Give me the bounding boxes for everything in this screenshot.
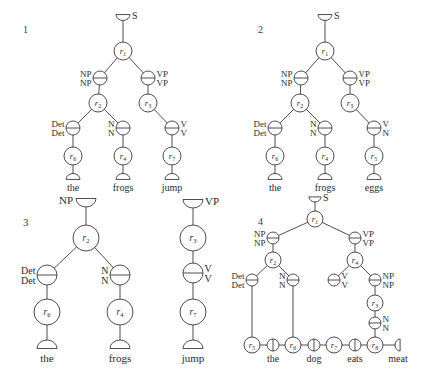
rule-node-r3: r3 (367, 295, 383, 311)
panel-2: 2Sr1NPNPVPVPr2r3DetDetNNVNr6r4r5thefrogs… (254, 10, 390, 194)
leaf-jump: jump (161, 174, 183, 194)
feature-bottom-label: Det (232, 280, 245, 290)
diagram-canvas: 1Sr1NPNPVPVPr2r3DetDetNNVVr6r4r7thefrogs… (0, 0, 425, 381)
root-label: S (323, 192, 329, 203)
leaf-frogs: frogs (113, 174, 134, 194)
feature-node: DetDet (21, 265, 57, 286)
rule-node-r4: r4 (107, 299, 133, 325)
rule-node-r3: r3 (139, 94, 157, 112)
panel-4: 4Sr1NPNPVPVPr2r4DetDetNNVVNPNPr3NNr5ther… (232, 192, 408, 364)
leaf-word: the (40, 352, 54, 364)
rule-node-r5: r5 (365, 147, 383, 165)
feature-node: NPNP (281, 69, 308, 88)
panel-1: 1Sr1NPNPVPVPr2r3DetDetNNVVr6r4r7thefrogs… (23, 10, 188, 194)
leaf-word: frogs (109, 352, 132, 364)
rule-node-r1: r1 (307, 211, 323, 227)
cup-icon (76, 199, 96, 208)
feature-bottom-label: VP (363, 238, 375, 248)
end-cup-icon (395, 339, 400, 351)
feature-bottom-label: N (101, 275, 108, 286)
rule-node-r1: r1 (316, 42, 334, 60)
feature-bottom-label: NP (281, 78, 293, 88)
end-cup-meat: meat (388, 339, 408, 364)
leaf-eggs: eggs (365, 174, 383, 194)
root-cup: S (116, 10, 138, 21)
feature-bottom-label: VP (359, 78, 371, 88)
root-label: NP (59, 194, 73, 206)
feature-bottom-label: NP (80, 78, 92, 88)
cup-icon (116, 15, 130, 21)
feature-node: VPVP (141, 69, 168, 88)
feature-node: NN (310, 119, 332, 138)
rule-node-r7: r7 (326, 337, 342, 353)
rule-node-r3: r3 (341, 94, 359, 112)
leaf-the: the (66, 174, 80, 194)
leaf-word: the (269, 182, 282, 193)
word-label: meat (388, 353, 408, 364)
feature-bottom-label: NP (254, 238, 266, 248)
feature-bottom-label: N (383, 323, 390, 333)
feature-node: DetDet (232, 271, 259, 290)
leaf-jump: jump (181, 340, 205, 364)
rule-node-r6: r6 (64, 147, 82, 165)
rule-node-r4: r4 (347, 252, 363, 268)
feature-node: VN (367, 119, 390, 138)
panel-number: 2 (258, 24, 263, 35)
feature-node: DetDet (52, 119, 81, 138)
leaf-cup-icon (66, 174, 80, 180)
word-node-the: the (267, 339, 280, 364)
leaf-word: jump (181, 352, 205, 364)
rule-node-r2: r2 (291, 94, 309, 112)
rule-node-r2: r2 (265, 252, 281, 268)
rule-node-r8: r8 (367, 337, 383, 353)
leaf-the: the (268, 174, 282, 194)
root-label: VP (205, 195, 219, 207)
leaf-the: the (37, 340, 57, 364)
rule-node-r5: r5 (244, 337, 260, 353)
feature-bottom-label: Det (52, 128, 65, 138)
feature-bottom-label: N (383, 128, 390, 138)
feature-node: NN (279, 271, 299, 290)
feature-node: NPNP (254, 229, 279, 248)
feature-bottom-label: N (279, 280, 286, 290)
feature-bottom-label: VP (157, 78, 169, 88)
word-label: eats (347, 353, 363, 364)
feature-bottom-label: V (342, 280, 349, 290)
leaf-cup-icon (165, 174, 179, 180)
feature-node: VV (183, 263, 213, 284)
feature-node: NN (108, 119, 130, 138)
feature-node: VPVP (349, 229, 374, 248)
feature-node: VV (165, 119, 188, 138)
rule-node-r7: r7 (180, 299, 206, 325)
leaf-word: frogs (113, 182, 134, 193)
cup-icon (183, 200, 203, 209)
feature-node: NN (101, 265, 130, 286)
rule-node-r4: r4 (316, 147, 334, 165)
feature-bottom-label: Det (254, 128, 267, 138)
leaf-cup-icon (318, 174, 332, 180)
rule-node-r2: r2 (89, 94, 107, 112)
root-cup: NP (59, 194, 96, 207)
leaf-cup-icon (183, 340, 203, 349)
leaf-cup-icon (37, 340, 57, 349)
parse-tree-figure: 1Sr1NPNPVPVPr2r3DetDetNNVVr6r4r7thefrogs… (0, 0, 425, 381)
feature-node: NN (369, 314, 390, 333)
rule-node-r6: r6 (266, 147, 284, 165)
panel-number: 3 (23, 216, 29, 228)
root-label: S (334, 10, 340, 21)
root-cup: VP (183, 195, 219, 208)
cup-icon (309, 197, 321, 202)
leaf-cup-icon (367, 174, 381, 180)
root-label: S (132, 10, 138, 21)
leaf-cup-icon (268, 174, 282, 180)
leaf-frogs: frogs (315, 174, 336, 194)
rule-node-r4: r4 (114, 147, 132, 165)
feature-node: VV (328, 271, 349, 290)
leaf-word: eggs (365, 182, 383, 193)
leaf-frogs: frogs (109, 340, 132, 364)
feature-bottom-label: Det (21, 275, 36, 286)
panel-number: 4 (258, 216, 263, 227)
panel-3: 3NPr2DetDetNNr6r4thefrogsVPr3VVr7jump (21, 194, 219, 364)
feature-bottom-label: V (181, 128, 188, 138)
feature-bottom-label: N (310, 128, 317, 138)
